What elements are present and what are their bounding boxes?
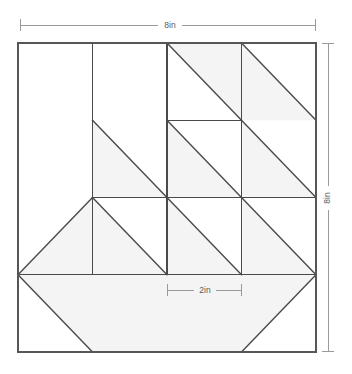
quilt-block-diagram: 8in 8in <box>0 0 352 374</box>
top-dimension-label: 8in <box>164 20 176 30</box>
right-dimension-group: 8in <box>322 44 334 352</box>
quilt-block-svg: 8in 8in <box>0 0 352 374</box>
top-dimension-group: 8in <box>21 19 316 31</box>
right-dimension-label: 8in <box>322 192 332 204</box>
inner-dimension-label: 2in <box>199 285 211 295</box>
